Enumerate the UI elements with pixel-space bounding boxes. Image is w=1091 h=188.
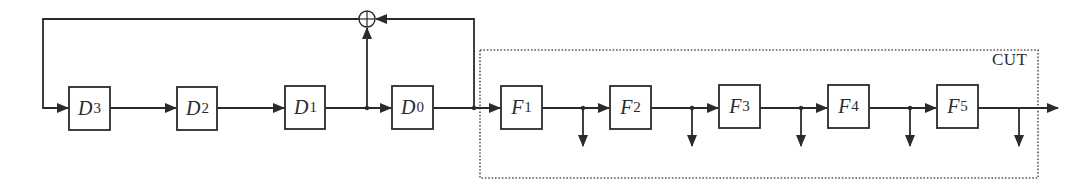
block-d3 [69,87,110,130]
block-f5 [937,85,978,128]
xor-adder-icon [359,11,375,27]
block-f3 [719,85,760,128]
diagram-canvas [0,0,1091,188]
lfsr-cut-diagram: D3 D2 D1 D0 F1 F2 F3 F4 F5 CUT [0,0,1091,188]
block-f1 [501,86,542,129]
block-d0 [392,86,433,129]
block-f2 [610,86,651,129]
block-f4 [828,85,869,128]
block-d2 [177,87,217,130]
block-d1 [285,86,325,129]
